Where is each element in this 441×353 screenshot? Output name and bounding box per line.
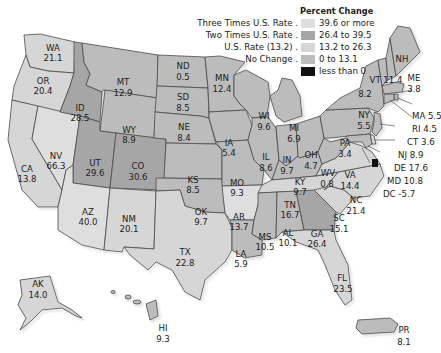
label-WY-value: 8.9 <box>122 135 136 145</box>
label-LA-value: 5.9 <box>234 259 248 269</box>
label-ID-value: 28.5 <box>70 113 89 123</box>
label-AK-value: 14.0 <box>28 290 47 300</box>
label-SC-abbr: SC <box>333 213 344 223</box>
label-UT-value: 29.6 <box>85 168 104 178</box>
label-IA-value: 5.4 <box>222 148 236 158</box>
legend-row-three-times: Three Times U.S. Rate . 39.6 or more <box>226 18 441 29</box>
label-HI-value: 9.3 <box>156 334 170 344</box>
label-AK-abbr: AK <box>32 279 44 289</box>
label-OH-value: 4.7 <box>304 161 318 171</box>
label-SC-value: 15.1 <box>329 224 348 234</box>
label-WV-abbr: WV <box>321 168 335 178</box>
legend-swatch <box>301 67 315 76</box>
label-WV-value: 0.8 <box>320 179 334 189</box>
label-MT-abbr: MT <box>117 77 130 87</box>
label-MT-value: 12.9 <box>113 88 132 98</box>
label-NE-abbr: NE <box>178 122 190 132</box>
label-MS-value: 10.5 <box>255 242 274 252</box>
label-MS-abbr: MS <box>259 232 272 242</box>
label-GA-value: 26.4 <box>307 239 326 249</box>
label-TN-value: 16.7 <box>280 210 299 220</box>
label-NE-value: 8.4 <box>177 133 191 143</box>
label-WI-value: 9.6 <box>257 122 271 132</box>
label-CO-abbr: CO <box>132 161 145 171</box>
label-NV-abbr: NV <box>50 151 62 161</box>
state-MI <box>270 78 302 122</box>
legend-swatch <box>301 19 315 28</box>
legend-title: Percent Change <box>300 6 373 16</box>
legend-label: No Change . <box>245 54 298 64</box>
label-MO-abbr: MO <box>230 178 244 188</box>
label-CA-value: 13.8 <box>17 174 36 184</box>
legend-swatch <box>301 55 315 64</box>
label-ID-abbr: ID <box>75 103 85 113</box>
label-KY-value: 9.7 <box>293 187 307 197</box>
legend-swatch <box>301 43 315 52</box>
dc-negative-swatch <box>372 159 378 167</box>
label-NY-abbr: NY <box>358 110 370 120</box>
label-PA-value: 3.4 <box>338 149 352 159</box>
label-AR-value: 13.7 <box>229 222 248 232</box>
label-WI-abbr: WI <box>258 111 269 121</box>
state-RI <box>394 94 398 100</box>
label-MI-abbr: MI <box>289 123 299 133</box>
label-IL-value: 8.6 <box>259 163 273 173</box>
label-AZ-abbr: AZ <box>82 207 94 217</box>
label-VA-value: 14.4 <box>340 181 359 191</box>
label-MO-value: 9.3 <box>230 188 244 198</box>
label-MA: MA 5.5 <box>412 111 441 121</box>
label-IN-value: 9.7 <box>280 166 294 176</box>
legend-range: 0 to 13.1 <box>319 54 358 64</box>
state-KS <box>164 143 222 179</box>
legend-row-no-change: No Change . 0 to 13.1 <box>226 54 441 65</box>
label-MI-value: 6.9 <box>287 134 301 144</box>
label-TX-abbr: TX <box>178 247 190 257</box>
state-HI <box>146 300 158 320</box>
label-OR-abbr: OR <box>37 76 50 86</box>
label-DC: DC -5.7 <box>383 189 415 199</box>
label-IL-abbr: IL <box>262 152 270 162</box>
label-AL-abbr: AL <box>283 228 294 238</box>
label-UT-abbr: UT <box>89 158 101 168</box>
label-VT-value: 8.2 <box>358 89 372 99</box>
legend-range: 13.2 to 26.3 <box>319 42 371 52</box>
label-NM-abbr: NM <box>122 214 136 224</box>
label-GA-abbr: GA <box>311 229 324 239</box>
label-IN-abbr: IN <box>283 155 292 165</box>
label-ME-value: 3.8 <box>407 84 421 94</box>
state-AK <box>18 276 82 330</box>
label-AZ-value: 40.0 <box>78 217 97 227</box>
state-HI-island <box>133 300 141 304</box>
label-FL-value: 23.5 <box>333 284 352 294</box>
label-FL-abbr: FL <box>337 273 347 283</box>
label-CT: CT 3.6 <box>407 137 435 147</box>
label-TN-abbr: TN <box>283 200 296 210</box>
label-PA-abbr: PA <box>340 138 351 148</box>
label-NC-abbr: NC <box>350 195 362 205</box>
label-PR-value: 8.1 <box>397 337 411 347</box>
label-CO-value: 30.6 <box>128 172 147 182</box>
label-TX-value: 22.8 <box>175 258 194 268</box>
label-MN-value: 12.4 <box>212 84 231 94</box>
label-KS-value: 8.5 <box>186 185 200 195</box>
label-OH-abbr: OH <box>304 150 317 160</box>
label-WY-abbr: WY <box>122 125 136 135</box>
legend-row-negative: less than 0 <box>226 66 441 77</box>
label-HI-abbr: HI <box>159 323 168 333</box>
legend-range: 39.6 or more <box>319 18 375 28</box>
label-KS-abbr: KS <box>187 175 198 185</box>
legend-label: Two Times U.S. Rate . <box>206 30 298 40</box>
label-MD: MD 10.8 <box>387 176 423 186</box>
legend-row-us-rate: U.S. Rate (13.2) . 13.2 to 26.3 <box>226 42 441 53</box>
label-VA-abbr: VA <box>344 170 355 180</box>
label-ND-value: 0.5 <box>176 72 190 82</box>
legend-swatch <box>301 31 315 40</box>
legend-label: U.S. Rate (13.2) . <box>224 42 298 52</box>
label-IA-abbr: IA <box>225 138 234 148</box>
label-NC-value: 21.4 <box>346 206 365 216</box>
label-LA-abbr: LA <box>236 249 247 259</box>
label-AR-abbr: AR <box>233 212 245 222</box>
state-HI-island <box>125 295 131 299</box>
label-KY-abbr: KY <box>295 177 306 187</box>
label-OK-abbr: OK <box>195 207 208 217</box>
